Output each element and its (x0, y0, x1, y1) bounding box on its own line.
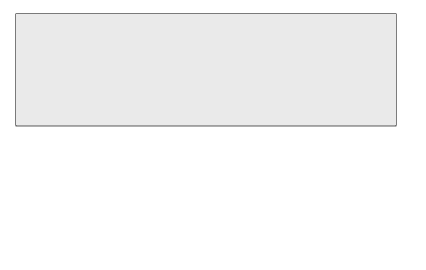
us-choropleth-map (0, 0, 426, 270)
